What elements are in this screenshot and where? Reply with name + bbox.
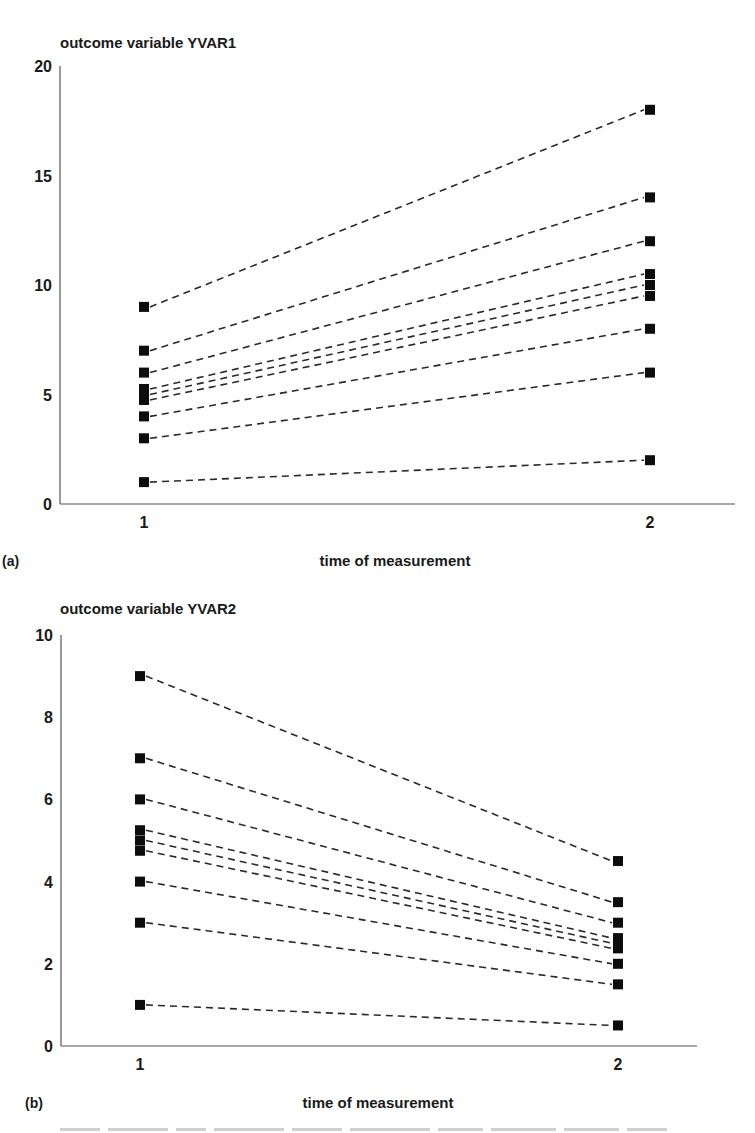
dashed-connector-line xyxy=(146,882,612,964)
data-series-group xyxy=(139,105,655,487)
panel-label: (b) xyxy=(25,1095,43,1111)
y-tick-label: 10 xyxy=(35,627,53,644)
x-axis: 1 2 xyxy=(61,1046,697,1073)
series-line-group xyxy=(135,794,623,927)
square-marker xyxy=(613,856,623,866)
square-marker xyxy=(645,236,655,246)
y-tick-label: 0 xyxy=(43,496,52,513)
x-tick-label: 2 xyxy=(646,514,655,531)
square-marker xyxy=(135,753,145,763)
series-line-group xyxy=(139,324,655,422)
series-line-group xyxy=(135,1000,623,1031)
dashed-connector-line xyxy=(150,241,644,372)
square-marker xyxy=(645,280,655,290)
series-line-group xyxy=(135,846,623,954)
square-marker xyxy=(645,455,655,465)
dashed-connector-line xyxy=(150,373,644,439)
x-axis-title: time of measurement xyxy=(303,1094,454,1111)
x-tick-label: 2 xyxy=(614,1056,623,1073)
square-marker xyxy=(135,671,145,681)
square-marker xyxy=(645,291,655,301)
dashed-connector-line xyxy=(146,851,612,949)
x-axis: 1 2 xyxy=(60,504,735,531)
square-marker xyxy=(613,943,623,953)
cutoff-caption-remnant xyxy=(60,1128,700,1133)
y-tick-label: 6 xyxy=(44,791,53,808)
square-marker xyxy=(645,368,655,378)
dashed-connector-line xyxy=(150,460,644,482)
square-marker xyxy=(135,1000,145,1010)
series-line-group xyxy=(135,877,623,969)
square-marker xyxy=(613,979,623,989)
square-marker xyxy=(135,877,145,887)
square-marker xyxy=(139,411,149,421)
panel-label: (a) xyxy=(2,553,19,569)
y-tick-labels: 05101520 xyxy=(34,58,52,513)
square-marker xyxy=(135,794,145,804)
dashed-connector-line xyxy=(150,197,644,350)
square-marker xyxy=(645,105,655,115)
dashed-connector-line xyxy=(146,799,612,922)
chart-title: outcome variable YVAR1 xyxy=(60,34,236,51)
dashed-connector-line xyxy=(146,923,612,985)
square-marker xyxy=(645,269,655,279)
series-line-group xyxy=(135,825,623,943)
x-axis-title: time of measurement xyxy=(320,552,471,569)
series-line-group xyxy=(139,455,655,487)
series-line-group xyxy=(139,269,655,394)
y-tick-label: 20 xyxy=(34,58,52,75)
y-tick-label: 5 xyxy=(43,387,52,404)
dashed-connector-line xyxy=(150,274,644,389)
series-line-group xyxy=(139,291,655,405)
y-tick-label: 15 xyxy=(34,168,52,185)
x-tick-label: 1 xyxy=(140,514,149,531)
series-line-group xyxy=(139,368,655,444)
square-marker xyxy=(139,477,149,487)
chart-yvar2: outcome variable YVAR2 0246810 1 2 (b) t… xyxy=(0,580,755,1120)
chart-title: outcome variable YVAR2 xyxy=(60,600,236,617)
dashed-connector-line xyxy=(146,830,612,938)
dashed-connector-line xyxy=(150,285,644,395)
dashed-connector-line xyxy=(146,676,612,861)
square-marker xyxy=(613,959,623,969)
y-tick-label: 0 xyxy=(44,1038,53,1055)
square-marker xyxy=(135,825,145,835)
square-marker xyxy=(645,324,655,334)
series-line-group xyxy=(135,753,623,907)
series-line-group xyxy=(139,236,655,377)
chart-yvar1: outcome variable YVAR1 05101520 1 2 (a) … xyxy=(0,0,755,570)
series-line-group xyxy=(139,280,655,400)
square-marker xyxy=(135,846,145,856)
square-marker xyxy=(613,918,623,928)
dashed-connector-line xyxy=(146,758,612,902)
dashed-connector-line xyxy=(150,296,644,400)
square-marker xyxy=(139,395,149,405)
y-tick-labels: 0246810 xyxy=(35,627,53,1055)
y-tick-label: 2 xyxy=(44,956,53,973)
square-marker xyxy=(139,368,149,378)
square-marker xyxy=(135,918,145,928)
square-marker xyxy=(613,1020,623,1030)
dashed-connector-line xyxy=(146,841,612,944)
data-series-group xyxy=(135,671,623,1030)
square-marker xyxy=(135,836,145,846)
square-marker xyxy=(645,192,655,202)
figure-panel-b: outcome variable YVAR2 0246810 1 2 (b) t… xyxy=(0,580,755,1120)
y-tick-label: 10 xyxy=(34,277,52,294)
y-axis: 05101520 xyxy=(34,58,60,513)
square-marker xyxy=(613,897,623,907)
x-tick-label: 1 xyxy=(136,1056,145,1073)
square-marker xyxy=(139,433,149,443)
y-tick-label: 4 xyxy=(44,874,53,891)
figure-panel-a: outcome variable YVAR1 05101520 1 2 (a) … xyxy=(0,0,755,570)
square-marker xyxy=(139,302,149,312)
series-line-group xyxy=(135,671,623,866)
series-line-group xyxy=(139,105,655,312)
y-tick-label: 8 xyxy=(44,709,53,726)
dashed-connector-line xyxy=(146,1005,612,1026)
dashed-connector-line xyxy=(150,110,644,307)
square-marker xyxy=(139,346,149,356)
y-axis: 0246810 xyxy=(35,627,61,1055)
